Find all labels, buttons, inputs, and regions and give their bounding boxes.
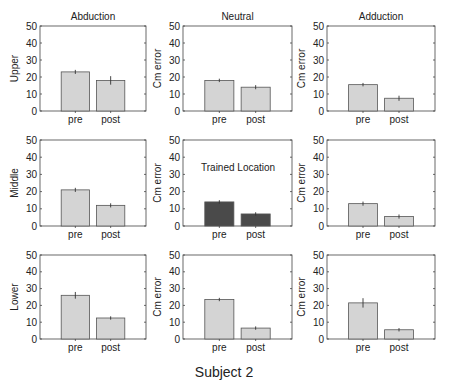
y-axis-label: Cm error: [152, 48, 163, 88]
y-tick-label: 40: [169, 38, 181, 49]
y-tick-label: 10: [313, 89, 325, 100]
y-tick-label: 30: [169, 283, 181, 294]
y-tick-label: 30: [313, 169, 325, 180]
axes-frame: [327, 140, 435, 226]
y-tick-label: 10: [169, 89, 181, 100]
x-tick-label: pre: [356, 229, 371, 240]
bar-post: [241, 87, 270, 111]
y-tick-label: 40: [313, 38, 325, 49]
y-tick-label: 20: [313, 186, 325, 197]
y-tick-label: 0: [318, 106, 324, 117]
panel-title: Adduction: [359, 11, 403, 22]
y-tick-label: 10: [26, 317, 38, 328]
y-tick-label: 0: [174, 334, 180, 345]
axes-frame: [327, 255, 435, 339]
bar-pre: [61, 295, 89, 339]
y-tick-label: 30: [169, 169, 181, 180]
y-axis-label: Lower: [9, 283, 20, 311]
y-tick-label: 30: [26, 283, 38, 294]
y-tick-label: 10: [26, 203, 38, 214]
y-tick-label: 50: [313, 135, 325, 146]
axes-frame: [40, 255, 146, 339]
x-tick-label: pre: [356, 342, 371, 353]
bar-pre: [205, 202, 234, 226]
y-axis-label: Upper: [9, 54, 20, 82]
bar-post: [97, 205, 125, 226]
x-tick-label: post: [390, 342, 409, 353]
y-tick-label: 20: [26, 72, 38, 83]
y-tick-label: 50: [169, 250, 181, 261]
x-tick-label: post: [101, 229, 120, 240]
axes-frame: [40, 140, 146, 226]
y-tick-label: 50: [313, 21, 325, 32]
y-tick-label: 40: [313, 152, 325, 163]
y-tick-label: 50: [169, 135, 181, 146]
x-tick-label: post: [101, 114, 120, 125]
x-tick-label: post: [101, 342, 120, 353]
annotation-trained-location: Trained Location: [201, 162, 275, 173]
bar-pre: [61, 190, 89, 226]
y-tick-label: 20: [169, 186, 181, 197]
y-tick-label: 20: [169, 300, 181, 311]
bar-pre: [61, 72, 89, 111]
bar-post: [97, 318, 125, 339]
panel-title: Abduction: [71, 11, 115, 22]
bar-pre: [349, 204, 378, 226]
y-axis-label: Cm error: [296, 48, 307, 88]
figure: 01020304050prepostUpperAbduction01020304…: [0, 0, 449, 392]
y-tick-label: 50: [26, 135, 38, 146]
y-tick-label: 30: [26, 55, 38, 66]
x-tick-label: pre: [212, 229, 227, 240]
bar-post: [97, 80, 125, 111]
y-tick-label: 40: [26, 152, 38, 163]
y-tick-label: 10: [169, 203, 181, 214]
y-tick-label: 40: [169, 266, 181, 277]
y-tick-label: 30: [169, 55, 181, 66]
bar-pre: [205, 80, 234, 111]
x-tick-label: pre: [68, 229, 83, 240]
x-tick-label: pre: [356, 114, 371, 125]
y-axis-label: Cm error: [152, 277, 163, 317]
y-tick-label: 0: [318, 334, 324, 345]
y-tick-label: 30: [313, 283, 325, 294]
panel-title: Neutral: [221, 11, 253, 22]
x-tick-label: post: [246, 342, 265, 353]
y-tick-label: 10: [313, 317, 325, 328]
axes-frame: [327, 26, 435, 111]
y-axis-label: Cm error: [296, 277, 307, 317]
x-tick-label: post: [390, 229, 409, 240]
bar-post: [241, 214, 270, 226]
y-tick-label: 20: [26, 186, 38, 197]
figure-title: Subject 2: [195, 364, 254, 380]
axes-frame: [183, 26, 292, 111]
y-tick-label: 0: [174, 106, 180, 117]
y-tick-label: 20: [313, 72, 325, 83]
y-tick-label: 50: [169, 21, 181, 32]
axes-frame: [40, 26, 146, 111]
y-tick-label: 10: [26, 89, 38, 100]
y-axis-label: Cm error: [152, 163, 163, 203]
y-tick-label: 0: [31, 334, 37, 345]
y-tick-label: 20: [169, 72, 181, 83]
x-tick-label: pre: [212, 114, 227, 125]
y-axis-label: Cm error: [296, 163, 307, 203]
y-axis-label: Middle: [9, 168, 20, 198]
x-tick-label: pre: [68, 114, 83, 125]
y-tick-label: 20: [26, 300, 38, 311]
bar-pre: [349, 303, 378, 339]
y-tick-label: 30: [26, 169, 38, 180]
x-tick-label: pre: [212, 342, 227, 353]
bar-pre: [349, 85, 378, 111]
x-tick-label: post: [390, 114, 409, 125]
y-tick-label: 0: [318, 221, 324, 232]
x-tick-label: pre: [68, 342, 83, 353]
x-tick-label: post: [246, 114, 265, 125]
y-tick-label: 0: [31, 221, 37, 232]
y-tick-label: 50: [313, 250, 325, 261]
y-tick-label: 40: [313, 266, 325, 277]
x-tick-label: post: [246, 229, 265, 240]
y-tick-label: 40: [169, 152, 181, 163]
axes-frame: [183, 140, 292, 226]
y-tick-label: 10: [169, 317, 181, 328]
y-tick-label: 0: [31, 106, 37, 117]
